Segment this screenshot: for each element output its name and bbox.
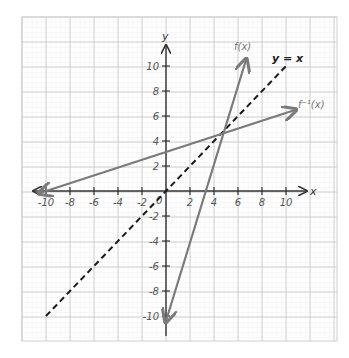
x-axis-label: x: [309, 185, 317, 198]
y-tick-label: -4: [149, 236, 159, 247]
x-tick-label: -2: [137, 197, 147, 208]
y-tick-label: -10: [143, 311, 159, 322]
x-tick-label: -8: [65, 197, 75, 208]
label-f: f(x): [234, 41, 251, 52]
y-tick-label: 10: [146, 61, 159, 72]
y-tick-label: -6: [149, 261, 159, 272]
y-tick-label: 4: [153, 136, 159, 147]
x-tick-label: -10: [38, 197, 54, 208]
y-tick-label: 8: [153, 86, 159, 97]
x-tick-label: -4: [113, 197, 123, 208]
x-tick-label: 10: [280, 197, 293, 208]
x-tick-label: 4: [211, 197, 217, 208]
y-tick-label: 2: [153, 161, 159, 172]
y-tick-label: -8: [149, 286, 159, 297]
label-f-inverse: f⁻¹(x): [298, 99, 325, 110]
x-tick-label: 6: [235, 197, 241, 208]
y-tick-label: -2: [149, 211, 159, 222]
x-tick-label: 2: [187, 197, 193, 208]
y-axis-label: y: [161, 30, 169, 43]
x-tick-label: -6: [89, 197, 99, 208]
label-y-equals-x: y = x: [272, 52, 304, 65]
y-tick-label: 6: [153, 111, 159, 122]
x-tick-label: 8: [259, 197, 265, 208]
coordinate-graph: -10-8-6-4-2246810108642-2-4-6-8-10 x y 0…: [0, 0, 349, 358]
